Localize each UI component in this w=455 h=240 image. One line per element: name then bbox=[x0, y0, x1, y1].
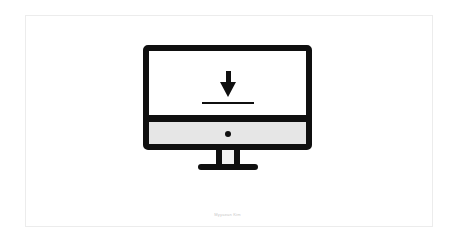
monitor-icon bbox=[143, 45, 312, 150]
stand-base bbox=[198, 164, 258, 170]
power-dot-icon bbox=[225, 131, 231, 137]
download-baseline-icon bbox=[202, 102, 254, 104]
monitor-divider bbox=[149, 115, 306, 122]
stand-neck-right bbox=[234, 149, 240, 165]
stand-neck-gap bbox=[222, 150, 234, 164]
caption-text: Myyaean Kim bbox=[0, 212, 455, 217]
download-arrow-head-icon bbox=[220, 82, 236, 97]
monitor-chin bbox=[149, 122, 306, 144]
